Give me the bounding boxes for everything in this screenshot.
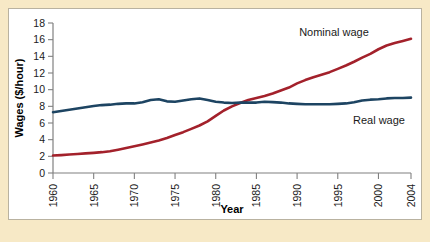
x-axis-title: Year [220, 203, 244, 215]
x-tick-label: 1995 [332, 184, 344, 208]
y-tick-label: 0 [39, 167, 45, 179]
x-tick-label: 1970 [128, 184, 140, 208]
x-tick-label: 1985 [250, 184, 262, 208]
series-label-real-wage: Real wage [353, 114, 405, 126]
y-axis-title: Wages ($/hour) [13, 58, 25, 137]
series-line-real-wage [53, 98, 411, 113]
chart-figure-panel: 024681012141618 196019651970197519801985… [8, 8, 422, 220]
y-tick-label: 18 [33, 17, 45, 29]
y-tick-label: 12 [33, 67, 45, 79]
y-tick-label: 2 [39, 150, 45, 162]
x-tick-label: 2004 [405, 184, 417, 208]
y-tick-label: 10 [33, 83, 45, 95]
y-tick-label: 16 [33, 33, 45, 45]
x-tick-label: 1975 [169, 184, 181, 208]
y-tick-label: 8 [39, 100, 45, 112]
series-label-nominal-wage: Nominal wage [299, 26, 369, 38]
series-line-nominal-wage [53, 39, 411, 156]
y-tick-label: 14 [33, 50, 45, 62]
x-tick-label: 1965 [88, 184, 100, 208]
y-axis: 024681012141618 [33, 17, 53, 179]
y-tick-label: 4 [39, 133, 45, 145]
x-tick-label: 1990 [291, 184, 303, 208]
wages-line-chart: 024681012141618 196019651970197519801985… [9, 9, 423, 221]
x-tick-label: 2000 [372, 184, 384, 208]
y-tick-label: 6 [39, 117, 45, 129]
chart-series-lines [53, 39, 411, 156]
x-tick-label: 1960 [47, 184, 59, 208]
